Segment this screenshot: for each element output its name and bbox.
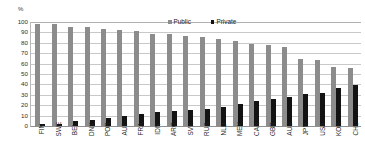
x-axis-tick-label: FIN — [39, 124, 45, 135]
y-axis-tick-label: 30 — [21, 92, 28, 98]
x-axis-label-cell: CHL — [345, 127, 362, 159]
legend-label-private: Private — [216, 19, 236, 25]
bar-chart: % Public Private 1009080706050403020100 … — [0, 0, 365, 159]
bar-group — [147, 22, 163, 126]
bar-group — [295, 22, 311, 126]
x-axis-tick-label: USA — [320, 122, 326, 135]
y-axis-tick-label: 90 — [21, 29, 28, 35]
chart-legend: Public Private — [168, 19, 236, 25]
x-axis-label-cell: FRA — [130, 127, 147, 159]
x-axis-label-cell: AUT — [114, 127, 131, 159]
x-axis-tick-label: ARG — [171, 122, 177, 136]
bar-group — [65, 22, 81, 126]
bar-private — [353, 85, 358, 126]
legend-label-public: Public — [174, 19, 191, 25]
x-axis-label-cell: JPN — [295, 127, 312, 159]
y-axis-unit-label: % — [18, 6, 23, 12]
y-axis-tick-label: 40 — [21, 81, 28, 87]
legend-item-private: Private — [211, 19, 236, 25]
x-axis-tick-label: KOR — [336, 122, 342, 136]
bar-private — [336, 88, 341, 126]
y-axis-tick-label: 10 — [21, 112, 28, 118]
x-axis-label-cell: ARG — [163, 127, 180, 159]
bars-layer — [31, 22, 361, 126]
bar-group — [48, 22, 64, 126]
x-axis-tick-label: GBR — [270, 122, 276, 136]
bar-public — [134, 31, 139, 126]
bar-public — [35, 24, 40, 126]
y-axis-tick-label: 20 — [21, 102, 28, 108]
bar-group — [32, 22, 48, 126]
bar-public — [52, 24, 57, 126]
y-axis-tick-label: 100 — [18, 19, 28, 25]
x-axis-tick-label: SVK — [188, 122, 194, 135]
bar-group — [114, 22, 130, 126]
bar-group — [164, 22, 180, 126]
x-axis-tick-label: BEL — [72, 123, 78, 135]
bar-group — [98, 22, 114, 126]
bar-group — [312, 22, 328, 126]
bar-group — [262, 22, 278, 126]
bar-public — [101, 29, 106, 126]
plot-area: 1009080706050403020100 — [30, 22, 361, 127]
x-axis-tick-label: POR — [105, 122, 111, 136]
bar-public — [117, 30, 122, 126]
bar-private — [303, 94, 308, 126]
x-axis-label-cell: SWE — [48, 127, 65, 159]
x-axis-tick-label: RUS — [204, 122, 210, 136]
x-axis-label-cell: DNK — [81, 127, 98, 159]
x-axis-tick-label: MEX — [237, 122, 243, 136]
x-axis-label-cell: KOR — [328, 127, 345, 159]
legend-item-public: Public — [168, 19, 191, 25]
x-axis-tick-label: NLD — [221, 122, 227, 135]
x-axis-labels: FINSWEBELDNKPORAUTFRAIDNARGSVKRUSNLDMEXC… — [30, 127, 361, 159]
x-axis-tick-label: AUT — [122, 122, 128, 135]
x-axis-label-cell: IDN — [147, 127, 164, 159]
x-axis-tick-label: JPN — [303, 123, 309, 135]
bar-group — [180, 22, 196, 126]
y-axis-tick-label: 50 — [21, 71, 28, 77]
x-axis-tick-label: SWE — [56, 122, 62, 137]
x-axis-label-cell: POR — [97, 127, 114, 159]
x-axis-tick-label: IDN — [155, 123, 161, 134]
x-axis-label-cell: CAN — [246, 127, 263, 159]
x-axis-tick-label: CAN — [254, 122, 260, 136]
x-axis-label-cell: MEX — [229, 127, 246, 159]
bar-group — [81, 22, 97, 126]
x-axis-label-cell: SVK — [180, 127, 197, 159]
bar-group — [246, 22, 262, 126]
bar-group — [213, 22, 229, 126]
bar-public — [85, 27, 90, 126]
x-axis-tick-label: CHL — [353, 122, 359, 135]
x-axis-label-cell: BEL — [64, 127, 81, 159]
bar-group — [229, 22, 245, 126]
y-axis-tick-label: 70 — [21, 50, 28, 56]
y-axis-tick-label: 60 — [21, 60, 28, 66]
bar-group — [131, 22, 147, 126]
x-axis-tick-label: FRA — [138, 122, 144, 135]
legend-swatch-public-icon — [168, 20, 172, 24]
y-axis-tick-label: 80 — [21, 40, 28, 46]
bar-group — [345, 22, 361, 126]
bar-group — [279, 22, 295, 126]
x-axis-label-cell: AUS — [279, 127, 296, 159]
x-axis-tick-label: AUS — [287, 122, 293, 135]
x-axis-label-cell: RUS — [196, 127, 213, 159]
bar-private — [320, 93, 325, 126]
x-axis-label-cell: FIN — [31, 127, 48, 159]
bar-group — [197, 22, 213, 126]
x-axis-label-cell: USA — [312, 127, 329, 159]
x-axis-label-cell: GBR — [262, 127, 279, 159]
bar-public — [68, 27, 73, 126]
bar-group — [328, 22, 344, 126]
x-axis-label-cell: NLD — [213, 127, 230, 159]
x-axis-tick-label: DNK — [89, 122, 95, 136]
y-axis-tick-label: 0 — [25, 123, 28, 129]
legend-swatch-private-icon — [211, 20, 215, 24]
